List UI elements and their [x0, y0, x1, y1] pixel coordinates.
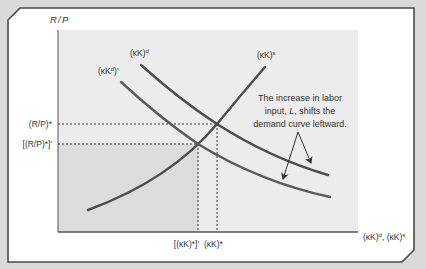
x-axis-label-demand: (κK) — [363, 232, 379, 242]
diagram-stage: R/P (R/P)* [(R/P)*]' [(κK)*]' (κK)* (κK)… — [0, 0, 426, 269]
y-tick-rp-star-prime: [(R/P)*]' — [23, 139, 53, 149]
supply-demand-diagram: R/P (R/P)* [(R/P)*]' [(κK)*]' (κK)* (κK)… — [0, 0, 426, 269]
demand-curve-new-label: (κKd)' — [98, 66, 119, 76]
x-tick-kk-star: (κK)* — [204, 239, 224, 249]
shaded-region — [58, 144, 198, 232]
annotation-line-1: The increase in labor — [258, 93, 342, 103]
shift-annotation: The increase in labor input, L, shifts t… — [253, 93, 347, 129]
x-axis-label: (κK)d, (κK)s — [363, 232, 405, 242]
y-tick-rp-star: (R/P)* — [29, 119, 53, 129]
annotation-line-2: input, L, shifts the — [265, 106, 336, 116]
x-axis-label-supply: (κK) — [387, 232, 403, 242]
x-tick-kk-star-prime: [(κK)*]' — [174, 239, 200, 249]
y-axis-label: R/P — [50, 14, 69, 25]
annotation-line-3: demand curve leftward. — [253, 119, 347, 129]
